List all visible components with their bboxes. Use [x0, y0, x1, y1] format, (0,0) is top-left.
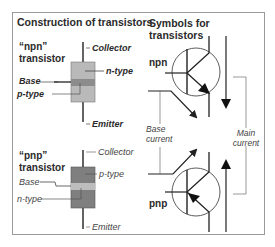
main-current-label: Main current — [230, 128, 262, 148]
main-current-line2: current — [230, 138, 262, 148]
npn-n-type-label: n-type — [106, 67, 133, 76]
npn-p-type-label: p-type — [17, 90, 44, 99]
pnp-name-line1: “pnp” — [19, 151, 47, 161]
symbols-title-line2: transistors — [149, 30, 203, 41]
pnp-collector-label: Collector — [98, 148, 134, 157]
pnp-base-label: Base — [19, 178, 40, 187]
base-current-line2: current — [146, 134, 172, 144]
base-current-label: Base current — [146, 124, 172, 144]
main-current-line1: Main — [230, 128, 262, 138]
npn-base-label: Base — [19, 77, 41, 86]
npn-name-line1: “npn” — [19, 42, 47, 52]
pnp-n-type-label: n-type — [17, 195, 42, 204]
pnp-symbol-label: pnp — [149, 199, 167, 209]
pnp-name-line2: transistor — [19, 163, 65, 173]
npn-name-line2: transistor — [19, 54, 65, 64]
base-current-line1: Base — [146, 124, 172, 134]
diagram-graphics — [0, 0, 275, 247]
npn-collector-label: Collector — [92, 44, 131, 53]
pnp-emitter-label: Emitter — [92, 223, 121, 232]
npn-symbol-label: npn — [149, 58, 167, 68]
symbols-title-line1: Symbols for — [149, 18, 210, 29]
npn-symbol — [165, 36, 231, 117]
pnp-p-type-label: p-type — [99, 170, 124, 179]
pnp-symbol — [165, 152, 231, 232]
construction-title: Construction of transistors — [17, 17, 152, 28]
npn-emitter-label: Emitter — [92, 120, 123, 129]
